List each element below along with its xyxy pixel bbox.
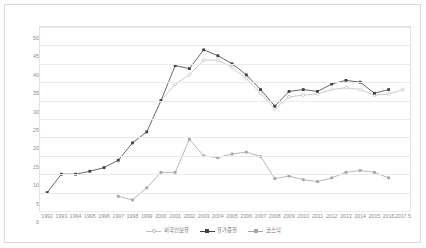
data-point-marker (245, 73, 248, 76)
gridline (40, 211, 410, 212)
y-axis-tick-label: 50 (17, 36, 39, 41)
data-point-marker (316, 92, 319, 95)
chart-legend: 외국인보유유가증권코스닥 (5, 224, 422, 238)
data-point-marker (373, 92, 376, 95)
x-axis-tick-label: 2003 (198, 214, 210, 219)
x-axis-tick-label: 2008 (269, 214, 281, 219)
legend-swatch-icon (200, 228, 215, 234)
x-axis-tick-label: 1996 (98, 214, 110, 219)
gridline (40, 137, 410, 138)
chart-frame: 05101520253035404550 1992199319941995199… (4, 4, 421, 243)
y-axis-tick-label: 15 (17, 165, 39, 170)
y-axis-tick-label: 45 (17, 55, 39, 60)
y-axis-tick-label: 25 (17, 128, 39, 133)
data-point-marker (259, 92, 262, 95)
x-axis-tick-label: 2016 (383, 214, 395, 219)
data-point-marker (330, 176, 333, 179)
data-point-marker (316, 180, 319, 183)
data-point-marker (231, 66, 234, 69)
data-point-marker (288, 95, 291, 98)
data-point-marker (117, 159, 120, 162)
x-axis-tick-label: 2004 (212, 214, 224, 219)
data-point-marker (131, 142, 134, 145)
y-axis-tick-label: 20 (17, 147, 39, 152)
data-point-marker (359, 88, 362, 91)
x-axis-tick-label: 2015 (369, 214, 381, 219)
x-axis-tick-label: 2006 (241, 214, 253, 219)
data-point-marker (344, 86, 347, 89)
gridline (40, 174, 410, 175)
x-axis-tick-label: 2010 (297, 214, 309, 219)
data-point-marker (387, 176, 390, 179)
x-axis-tick-label: 1997 (112, 214, 124, 219)
gridline (40, 27, 410, 28)
y-axis-tick-label: 10 (17, 183, 39, 188)
data-point-marker (88, 170, 91, 173)
data-point-marker (401, 88, 404, 91)
data-point-marker (302, 88, 305, 91)
gridline (40, 156, 410, 157)
data-point-marker (316, 90, 319, 93)
x-axis-tick-label: 2005 (226, 214, 238, 219)
data-point-marker (259, 88, 262, 91)
x-axis-tick-label: 2012 (326, 214, 338, 219)
data-point-marker (273, 107, 276, 110)
data-point-marker (117, 195, 120, 198)
x-axis-tick-label: 1994 (70, 214, 82, 219)
x-axis-tick-label: 2014 (354, 214, 366, 219)
y-axis-tick-label: 5 (17, 202, 39, 207)
x-axis-tick-label: 2011 (312, 214, 323, 219)
gridline (40, 64, 410, 65)
gridline (40, 101, 410, 102)
data-point-marker (145, 186, 148, 189)
data-point-marker (202, 48, 205, 51)
gridline (40, 45, 410, 46)
legend-item-label: 외국인보유 (164, 228, 189, 233)
y-axis-tick-label: 35 (17, 91, 39, 96)
gridline (40, 82, 410, 83)
series-외국인보유 (159, 59, 404, 111)
data-point-marker (188, 67, 191, 70)
data-point-marker (245, 77, 248, 80)
legend-item-유가증권[interactable]: 유가증권 (200, 228, 238, 234)
x-axis-tick-label: 2017.5 (395, 214, 411, 219)
legend-swatch-icon (146, 228, 161, 234)
data-point-marker (131, 199, 134, 202)
data-point-marker (359, 169, 362, 172)
x-axis-tick-label: 2000 (155, 214, 167, 219)
x-axis-tick-label: 1999 (141, 214, 153, 219)
x-axis-tick-label: 2002 (184, 214, 196, 219)
x-axis-tick-label: 2007 (255, 214, 267, 219)
data-point-marker (245, 151, 248, 154)
x-axis-tick-label: 2013 (340, 214, 352, 219)
data-point-marker (288, 90, 291, 93)
x-axis-tick-label: 2009 (283, 214, 295, 219)
x-axis-tick-label: 1993 (56, 214, 68, 219)
data-point-marker (387, 88, 390, 91)
data-point-marker (302, 178, 305, 181)
legend-item-코스닥[interactable]: 코스닥 (248, 228, 281, 234)
series-line (118, 139, 388, 200)
data-point-marker (103, 166, 106, 169)
gridline (40, 119, 410, 120)
series-유가증권 (46, 48, 390, 194)
data-point-marker (273, 177, 276, 180)
data-point-marker (216, 59, 219, 62)
y-axis-tick-label: 40 (17, 73, 39, 78)
data-point-marker (202, 59, 205, 62)
data-point-marker (188, 73, 191, 76)
data-point-marker (387, 92, 390, 95)
legend-item-label: 코스닥 (266, 228, 281, 233)
data-point-marker (330, 88, 333, 91)
y-axis-tick-label: 30 (17, 110, 39, 115)
plot-container: 05101520253035404550 1992199319941995199… (15, 13, 413, 215)
data-point-marker (216, 54, 219, 57)
legend-item-label: 유가증권 (217, 228, 237, 233)
data-point-marker (145, 130, 148, 133)
legend-item-외국인보유[interactable]: 외국인보유 (146, 228, 189, 234)
x-axis-tick-label: 2001 (169, 214, 181, 219)
legend-swatch-icon (248, 228, 263, 234)
series-line (47, 50, 389, 193)
y-axis: 05101520253035404550 (15, 26, 39, 212)
gridline (40, 193, 410, 194)
